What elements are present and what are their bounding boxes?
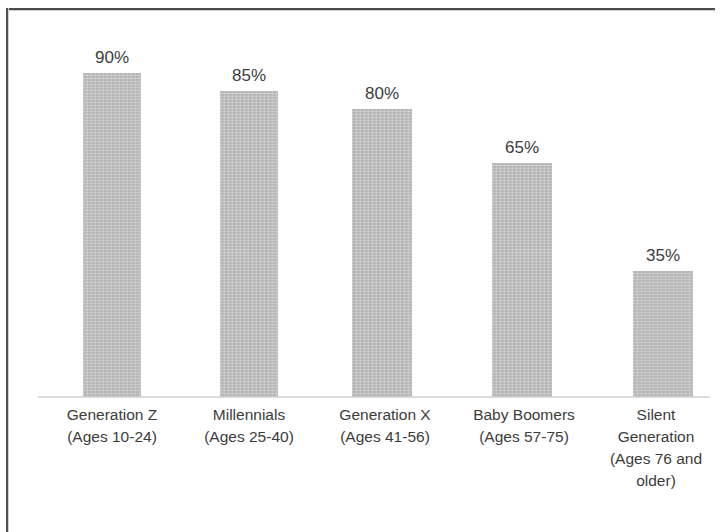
category-label-line: (Ages 57-75) <box>450 426 598 448</box>
category-label-line: Generation X <box>311 404 459 426</box>
bar-value-label-generation-z: 90% <box>95 48 129 68</box>
bar-value-label-baby-boomers: 65% <box>505 138 539 158</box>
plot-area: 90% 85% 80% 65% 35% <box>0 0 721 532</box>
category-label-line: (Ages 10-24) <box>38 426 186 448</box>
category-label-generation-z: Generation Z (Ages 10-24) <box>38 404 186 448</box>
category-label-millennials: Millennials (Ages 25-40) <box>175 404 323 448</box>
category-label-line: Generation <box>592 426 720 448</box>
category-label-line: Generation Z <box>38 404 186 426</box>
bar-value-label-silent-generation: 35% <box>646 246 680 266</box>
bar-millennials <box>220 91 278 397</box>
category-label-line: (Ages 76 and <box>592 448 720 470</box>
bar-group-generation-z: 90% <box>83 73 141 397</box>
category-label-line: (Ages 41-56) <box>311 426 459 448</box>
bar-group-generation-x: 80% <box>352 109 412 397</box>
category-label-line: Millennials <box>175 404 323 426</box>
bar-baby-boomers <box>492 163 552 397</box>
bar-group-silent-generation: 35% <box>633 271 693 397</box>
category-label-silent-generation: Silent Generation (Ages 76 and older) <box>592 404 720 492</box>
bar-value-label-generation-x: 80% <box>365 84 399 104</box>
category-label-line: older) <box>592 470 720 492</box>
category-label-baby-boomers: Baby Boomers (Ages 57-75) <box>450 404 598 448</box>
category-label-line: (Ages 25-40) <box>175 426 323 448</box>
category-label-line: Baby Boomers <box>450 404 598 426</box>
bar-generation-x <box>352 109 412 397</box>
category-label-line: Silent <box>592 404 720 426</box>
bar-silent-generation <box>633 271 693 397</box>
bar-group-millennials: 85% <box>220 91 278 397</box>
bar-generation-z <box>83 73 141 397</box>
bar-chart-figure: 90% 85% 80% 65% 35% <box>0 0 721 532</box>
category-label-generation-x: Generation X (Ages 41-56) <box>311 404 459 448</box>
bar-value-label-millennials: 85% <box>232 66 266 86</box>
bar-group-baby-boomers: 65% <box>492 163 552 397</box>
